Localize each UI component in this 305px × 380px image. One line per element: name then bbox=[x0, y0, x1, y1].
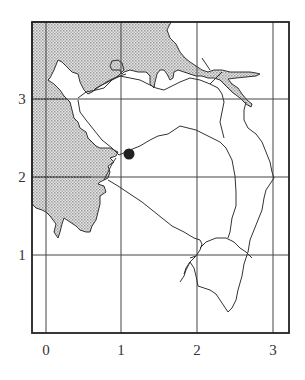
rivers bbox=[78, 58, 274, 312]
y-tick-1: 1 bbox=[18, 247, 26, 263]
x-tick-0: 0 bbox=[42, 342, 50, 358]
y-axis-labels: 3 2 1 bbox=[18, 91, 26, 263]
y-tick-2: 2 bbox=[18, 169, 26, 185]
location-marker bbox=[124, 149, 135, 160]
x-tick-3: 3 bbox=[269, 342, 277, 358]
x-axis-labels: 0 1 2 3 bbox=[42, 342, 277, 358]
map-figure: 0 1 2 3 3 2 1 bbox=[0, 0, 305, 380]
x-tick-2: 2 bbox=[193, 342, 201, 358]
x-tick-1: 1 bbox=[117, 342, 125, 358]
y-tick-3: 3 bbox=[18, 91, 26, 107]
